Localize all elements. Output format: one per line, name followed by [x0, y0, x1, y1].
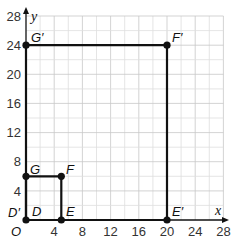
- y-axis-arrow-icon: [23, 7, 29, 14]
- point-e: [58, 216, 65, 223]
- point-f-prime: [163, 42, 170, 49]
- x-tick-label: 16: [132, 224, 146, 239]
- label-g: G: [30, 162, 40, 177]
- x-tick-label: 8: [79, 224, 86, 239]
- x-axis-label: x: [214, 203, 222, 218]
- label-e: E: [66, 204, 75, 219]
- x-tick-label: 4: [51, 224, 58, 239]
- x-axis-arrow-icon: [222, 217, 229, 223]
- label-f: F: [66, 162, 75, 177]
- label-f-prime: F′: [172, 30, 183, 45]
- x-tick-label: 12: [103, 224, 117, 239]
- y-tick-label: 24: [7, 38, 21, 53]
- grid: [26, 16, 223, 220]
- point-e-prime: [163, 216, 170, 223]
- y-tick-label: 12: [7, 125, 21, 140]
- y-tick-label: 28: [7, 9, 21, 24]
- label-d-prime: D′: [8, 205, 20, 220]
- y-tick-label: 16: [7, 96, 21, 111]
- y-tick-label: 8: [14, 154, 21, 169]
- label-g-prime: G′: [31, 30, 44, 45]
- origin-label: O: [11, 224, 21, 239]
- x-tick-label: 24: [188, 224, 202, 239]
- label-e-prime: E′: [172, 204, 184, 219]
- x-tick-label: 20: [160, 224, 174, 239]
- point-g-prime: [22, 42, 29, 49]
- label-d: D: [32, 204, 41, 219]
- y-tick-labels: 4 8 12 16 20 24 28: [7, 9, 21, 199]
- point-f: [58, 173, 65, 180]
- coordinate-plane: x y 4 8 12 16 20 24 28 4 8 12 16 20 24 2…: [0, 0, 240, 243]
- x-tick-label: 28: [216, 224, 230, 239]
- y-tick-label: 4: [14, 184, 21, 199]
- point-g: [22, 173, 29, 180]
- x-tick-labels: 4 8 12 16 20 24 28: [51, 224, 231, 239]
- y-tick-label: 20: [7, 67, 21, 82]
- y-axis-label: y: [29, 9, 38, 24]
- point-d: [22, 216, 29, 223]
